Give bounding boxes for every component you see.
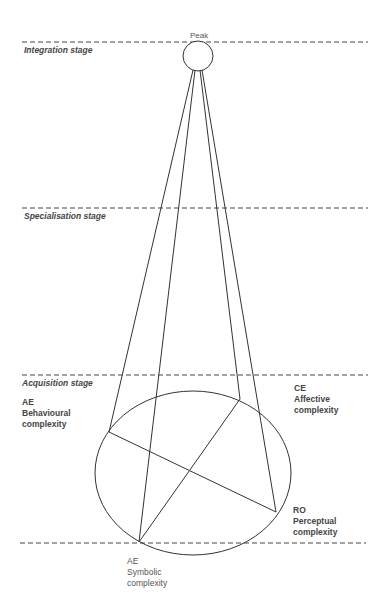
affective-node-label: CE Affective complexity — [294, 383, 338, 416]
complexity-ellipse — [95, 391, 291, 555]
specialisation-stage-label: Specialisation stage — [24, 211, 106, 222]
perceptual-code: RO — [293, 505, 337, 516]
perceptual-name: Perceptual — [293, 516, 337, 527]
peak-to-behavioural-line — [109, 70, 193, 432]
symbolic-sub: complexity — [127, 578, 167, 589]
peak-to-perceptual-line — [202, 70, 276, 512]
behavioural-sub: complexity — [22, 419, 71, 430]
peak-label: Peak — [190, 30, 208, 41]
peak-circle — [183, 41, 213, 71]
affective-to-symbolic-line — [139, 399, 240, 542]
behavioural-name: Behavioural — [22, 408, 71, 419]
symbolic-code: AE — [127, 556, 167, 567]
perceptual-sub: complexity — [293, 527, 337, 538]
symbolic-name: Symbolic — [127, 567, 167, 578]
peak-to-affective-line — [200, 70, 240, 399]
peak-to-symbolic-line — [139, 70, 195, 542]
symbolic-node-label: AE Symbolic complexity — [127, 556, 167, 589]
behavioural-code: AE — [22, 397, 71, 408]
integration-stage-label: Integration stage — [24, 45, 92, 56]
affective-code: CE — [294, 383, 338, 394]
behavioural-node-label: AE Behavioural complexity — [22, 397, 71, 430]
affective-sub: complexity — [294, 405, 338, 416]
acquisition-stage-label: Acquisition stage — [22, 378, 93, 389]
behavioural-to-perceptual-line — [109, 432, 276, 512]
perceptual-node-label: RO Perceptual complexity — [293, 505, 337, 538]
affective-name: Affective — [294, 394, 338, 405]
